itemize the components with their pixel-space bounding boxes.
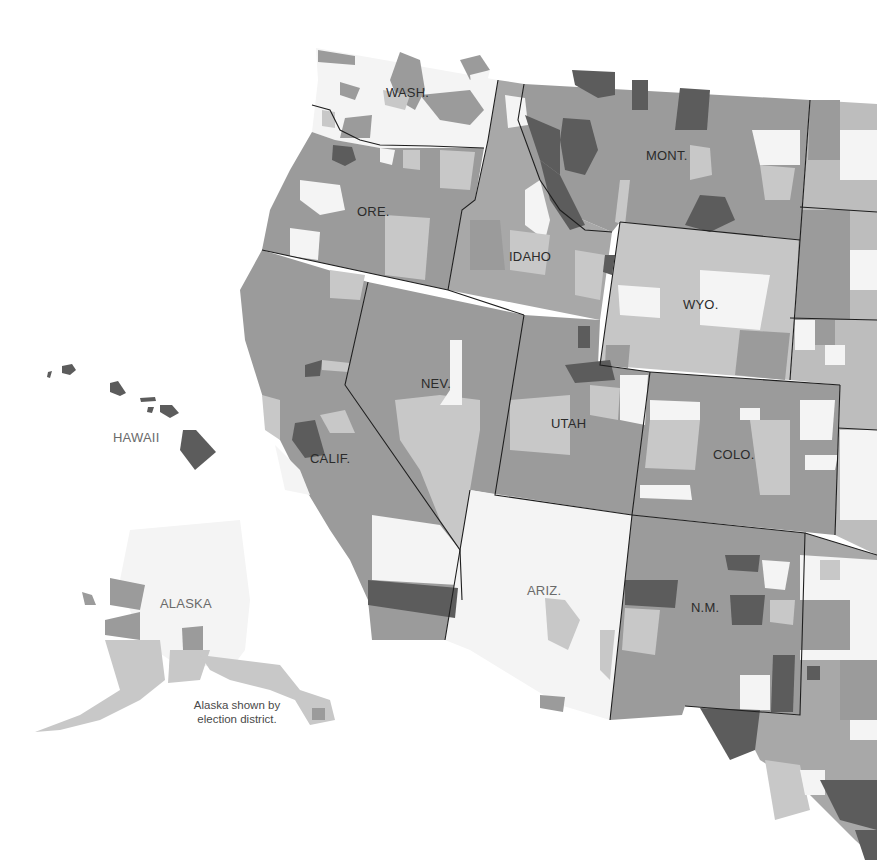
label-colo: COLO. [713,447,754,462]
label-wash: WASH. [386,85,429,100]
label-nm: N.M. [691,600,719,615]
footnote-line-1: Alaska shown by [182,698,292,712]
alaska-footnote: Alaska shown by election district. [182,698,292,726]
footnote-line-2: election district. [182,712,292,726]
label-utah: UTAH [551,416,586,431]
label-nev: NEV. [421,376,451,391]
hawaii-islands [47,364,216,470]
label-ore: ORE. [357,204,390,219]
label-mont: MONT. [646,148,687,163]
label-ariz: ARIZ. [527,583,561,598]
label-wyo: WYO. [683,297,718,312]
label-hawaii: HAWAII [113,430,159,445]
state-ariz [445,490,632,720]
label-idaho: IDAHO [509,249,551,264]
label-calif: CALIF. [310,451,350,466]
label-alaska: ALASKA [160,596,212,611]
